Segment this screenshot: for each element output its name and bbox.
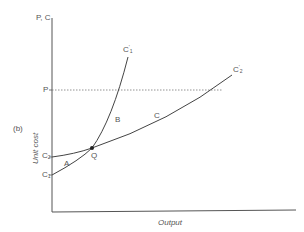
x-axis-title: Output xyxy=(158,219,182,227)
y-axis-top-label: P, C xyxy=(36,14,51,22)
y-axis-title: Unit cost xyxy=(32,133,40,164)
region-a-label: A xyxy=(64,160,69,168)
intersection-point-q xyxy=(90,146,94,150)
region-c-label: C xyxy=(154,112,160,120)
price-label: P xyxy=(43,86,48,94)
curve-c2-prime xyxy=(52,75,232,157)
intercept-c1-label: C1 xyxy=(42,171,51,179)
region-b-label: B xyxy=(115,116,120,124)
cost-diagram xyxy=(0,0,304,232)
curve-c2-prime-label: C'2 xyxy=(233,65,243,74)
intersection-q-label: Q xyxy=(91,152,97,160)
x-axis xyxy=(52,210,296,212)
intercept-c2-label: C2 xyxy=(42,152,51,160)
panel-label: (b) xyxy=(13,125,23,133)
curve-c1-prime-label: C'1 xyxy=(123,45,133,54)
